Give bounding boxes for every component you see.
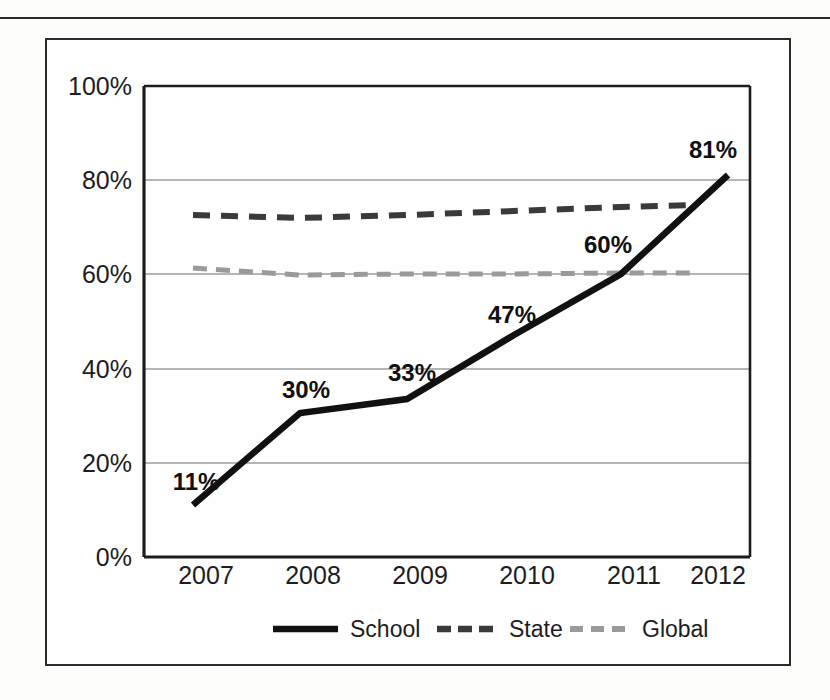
y-tick-label: 0% <box>96 543 132 571</box>
legend-label-school: School <box>350 616 420 642</box>
legend-item-global[interactable]: Global <box>570 616 708 642</box>
legend-label-state: State <box>509 616 563 642</box>
data-label: 33% <box>388 359 436 386</box>
line-chart: 100% 80% 60% 40% 20% 0% 2007 2008 2009 2… <box>0 0 830 700</box>
legend-label-global: Global <box>642 616 708 642</box>
series-line-state <box>193 205 695 218</box>
x-tick-label: 2010 <box>499 561 555 589</box>
data-label: 81% <box>689 136 737 163</box>
plot-area-border <box>144 86 750 557</box>
y-tick-label: 40% <box>82 355 132 383</box>
chart-legend: School State Global <box>273 616 708 642</box>
legend-item-state[interactable]: State <box>437 616 563 642</box>
data-label: 47% <box>488 301 536 328</box>
x-tick-label: 2011 <box>607 561 661 589</box>
gridlines <box>144 180 750 463</box>
x-tick-label: 2009 <box>392 561 448 589</box>
legend-item-school[interactable]: School <box>273 616 420 642</box>
y-axis-tick-labels: 100% 80% 60% 40% 20% 0% <box>68 72 132 571</box>
chart-container: 100% 80% 60% 40% 20% 0% 2007 2008 2009 2… <box>0 0 830 700</box>
y-tick-label: 80% <box>82 166 132 194</box>
x-tick-label: 2007 <box>178 561 234 589</box>
y-tick-label: 20% <box>82 449 132 477</box>
x-tick-label: 2008 <box>285 561 341 589</box>
data-label: 11% <box>173 468 220 495</box>
y-tick-label: 60% <box>82 260 132 288</box>
series-line-school <box>193 175 728 505</box>
page-canvas: 100% 80% 60% 40% 20% 0% 2007 2008 2009 2… <box>0 0 830 700</box>
data-label: 60% <box>584 231 632 258</box>
x-tick-label: 2012 <box>690 561 746 589</box>
y-tick-label: 100% <box>68 72 132 100</box>
data-point-labels: 11% 30% 33% 47% 60% 81% <box>173 136 737 495</box>
data-label: 30% <box>282 376 330 403</box>
x-axis-tick-labels: 2007 2008 2009 2010 2011 2012 <box>178 561 746 589</box>
